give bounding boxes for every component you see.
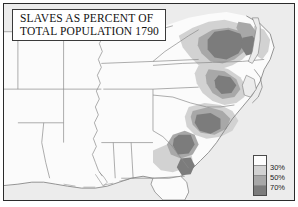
map-title-plate: SLAVES AS PERCENT OF TOTAL POPULATION 17… <box>12 9 166 41</box>
legend-labels: 30% 50% 70% <box>270 155 285 193</box>
legend-swatch-30-50 <box>254 165 266 175</box>
legend-swatch-under-30 <box>254 156 266 165</box>
legend-swatch-50-70 <box>254 175 266 185</box>
legend-label-50: 50% <box>270 173 285 183</box>
legend-color-bar <box>253 155 267 196</box>
map-title-line-2: TOTAL POPULATION 1790 <box>20 25 159 38</box>
map-frame: SLAVES AS PERCENT OF TOTAL POPULATION 17… <box>3 3 295 201</box>
choropleth-map-figure: SLAVES AS PERCENT OF TOTAL POPULATION 17… <box>0 0 298 207</box>
map-legend: 30% 50% 70% <box>253 155 285 196</box>
legend-label-70: 70% <box>270 183 285 193</box>
legend-label-30: 30% <box>270 163 285 173</box>
legend-swatch-over-70 <box>254 185 266 195</box>
map-title-line-1: SLAVES AS PERCENT OF <box>20 12 159 25</box>
